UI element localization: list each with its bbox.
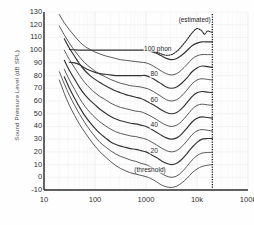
label-20-phon: 20	[150, 147, 159, 154]
equal-loudness-contour-chart: Sound Pressure Level (dB SPL) 1301201101…	[0, 0, 254, 225]
curve-annotations: (estimated)100 phon80604020(threshold)	[0, 0, 254, 225]
label-100-phon: 100 phon	[143, 46, 172, 53]
label-60-phon: 60	[150, 96, 159, 103]
label-80-phon: 80	[150, 71, 159, 78]
estimated-note: (estimated)	[178, 16, 211, 22]
label-40-phon: 40	[150, 122, 159, 129]
label-threshold: (threshold)	[134, 166, 167, 173]
